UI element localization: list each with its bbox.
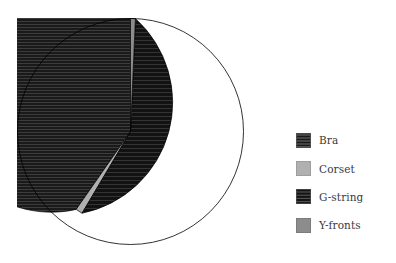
pie-chart-svg [17,18,244,245]
legend-label-bra: Bra [319,134,338,146]
legend-item-y-fronts[interactable]: Y-fronts [296,211,392,239]
legend-swatch-bra-icon [296,133,311,148]
pie-chart [17,18,244,245]
legend-label-corset: Corset [319,163,355,175]
figure-canvas: Bra Corset [0,0,396,263]
legend-label-y-fronts: Y-fronts [319,219,361,231]
legend-item-g-string[interactable]: G-string [296,183,392,211]
legend: Bra Corset [296,126,392,240]
legend-swatch-corset-icon [296,161,311,176]
legend-swatch-y-fronts-icon [296,218,311,233]
legend-swatch-g-string-icon [296,189,311,204]
legend-item-bra[interactable]: Bra [296,126,392,154]
legend-label-g-string: G-string [319,191,363,203]
legend-item-corset[interactable]: Corset [296,154,392,182]
